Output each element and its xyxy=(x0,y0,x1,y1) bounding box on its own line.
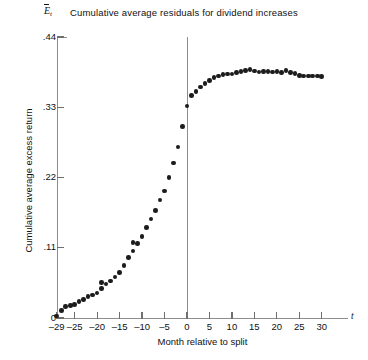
chart-title: Cumulative average residuals for dividen… xyxy=(70,7,320,18)
y-axis-symbol-base: E xyxy=(44,5,50,16)
x-axis-tick xyxy=(321,312,322,319)
data-point xyxy=(189,93,194,98)
x-axis-line xyxy=(57,318,348,319)
data-point xyxy=(176,145,181,150)
y-axis-tick xyxy=(57,247,64,248)
x-axis-tick xyxy=(276,312,277,319)
data-point xyxy=(207,78,212,83)
data-point xyxy=(171,161,176,166)
data-point xyxy=(108,279,113,284)
x-axis-tick-label: 30 xyxy=(305,321,339,332)
data-point xyxy=(261,69,266,74)
data-point xyxy=(243,68,248,73)
data-point xyxy=(194,89,199,94)
x-axis-symbol: t xyxy=(351,311,354,321)
data-point xyxy=(122,263,127,268)
x-axis-tick xyxy=(254,312,255,319)
x-axis-tick xyxy=(231,312,232,319)
x-axis-tick xyxy=(299,312,300,319)
x-axis-tick xyxy=(74,312,75,319)
chart-figure: Cumulative average residuals for dividen… xyxy=(0,0,368,360)
data-point xyxy=(198,85,203,90)
y-axis-tick-label: .44 xyxy=(16,31,56,42)
data-point xyxy=(153,208,158,213)
data-point xyxy=(149,217,154,222)
data-point xyxy=(135,241,140,246)
data-point xyxy=(279,70,284,75)
data-point xyxy=(95,291,100,296)
data-point xyxy=(288,70,293,75)
data-point xyxy=(319,74,324,79)
x-axis-tick xyxy=(186,312,187,319)
x-axis-tick xyxy=(119,312,120,319)
data-point xyxy=(131,249,136,254)
y-axis-symbol: Et xyxy=(44,5,52,18)
y-axis-title: Cumulative average excess return xyxy=(23,66,34,296)
x-axis-tick xyxy=(97,312,98,319)
data-point xyxy=(270,70,275,75)
x-axis-title: Month relative to split xyxy=(57,336,348,347)
data-point xyxy=(158,198,163,203)
x-axis-tick xyxy=(141,312,142,319)
zero-reference-line xyxy=(187,37,188,319)
data-point xyxy=(140,234,145,239)
x-axis-tick xyxy=(164,312,165,319)
data-point xyxy=(162,189,167,194)
data-point xyxy=(59,308,64,313)
y-axis-tick xyxy=(57,36,64,37)
data-point xyxy=(252,69,257,74)
data-point xyxy=(99,286,104,291)
data-point xyxy=(117,270,122,275)
data-point xyxy=(167,175,172,180)
data-point xyxy=(126,255,131,260)
y-axis-symbol-subscript: t xyxy=(50,10,52,18)
data-point xyxy=(113,275,118,280)
data-point xyxy=(144,225,149,230)
data-point xyxy=(180,124,185,129)
x-axis-tick xyxy=(209,312,210,319)
y-axis-tick xyxy=(57,107,64,108)
y-axis-tick xyxy=(57,177,64,178)
data-point xyxy=(185,104,190,109)
